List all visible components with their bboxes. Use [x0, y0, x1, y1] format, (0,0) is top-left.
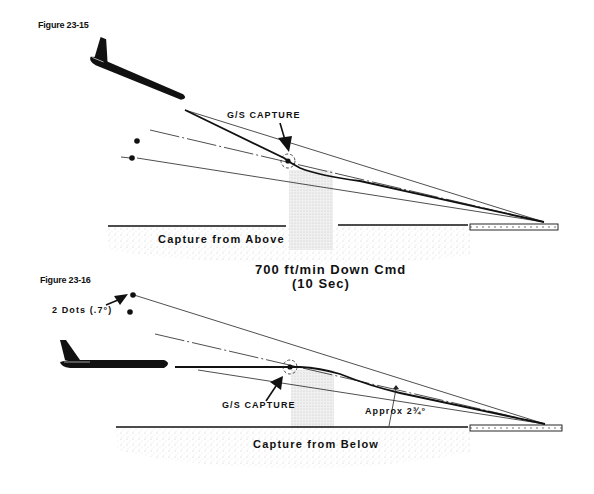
descent-command-label: 700 ft/min Down Cmd	[255, 262, 406, 277]
angle-label: Approx 2¾°	[365, 406, 426, 416]
glideslope-center-line	[155, 334, 545, 424]
airplane-icon	[88, 36, 194, 101]
upper-beam-line	[134, 295, 545, 424]
figure-label: Figure 23-15	[38, 20, 89, 30]
glideslope-diagram: Figure 23-15 G/S CAPTURE	[0, 0, 594, 494]
figure-title: Capture from Below	[253, 438, 379, 450]
deviation-dot	[130, 292, 136, 298]
deviation-dot	[129, 155, 135, 161]
capture-arrow-icon	[278, 123, 292, 152]
capture-point	[285, 158, 290, 163]
airplane-icon	[60, 340, 168, 368]
deviation-dot	[127, 309, 133, 315]
runway	[470, 224, 558, 230]
figure-title: Capture from Above	[158, 233, 285, 245]
figure-label: Figure 23-16	[40, 275, 91, 285]
descent-duration-label: (10 Sec)	[292, 276, 350, 291]
deviation-dot	[134, 138, 140, 144]
capture-zone	[291, 370, 334, 428]
figure-23-16: Figure 23-16 2 Dots (.7°)	[40, 275, 562, 468]
lower-beam-line	[137, 158, 544, 222]
capture-label: G/S CAPTURE	[222, 400, 296, 410]
upper-beam-line	[185, 110, 544, 222]
capture-arrow-icon	[266, 376, 283, 401]
dots-arrow-icon	[106, 294, 128, 305]
capture-label: G/S CAPTURE	[227, 110, 301, 120]
capture-point	[287, 364, 292, 369]
figure-23-15: Figure 23-15 G/S CAPTURE	[38, 20, 558, 264]
dots-label: 2 Dots (.7°)	[52, 305, 112, 315]
runway	[470, 425, 562, 431]
capture-zone	[289, 170, 333, 250]
